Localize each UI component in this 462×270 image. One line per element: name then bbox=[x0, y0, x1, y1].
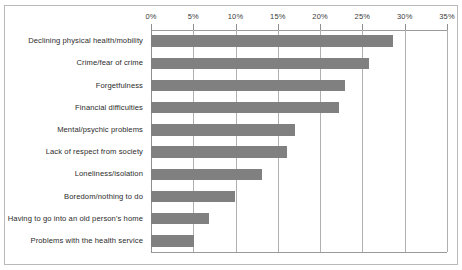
x-tick-label: 20% bbox=[312, 12, 328, 21]
category-label: Mental/psychic problems bbox=[57, 125, 143, 134]
bar bbox=[151, 80, 345, 92]
x-tick-label: 0% bbox=[145, 12, 156, 21]
category-label: Declining physical health/mobility bbox=[28, 36, 143, 45]
category-label: Having to go into an old person's home bbox=[8, 214, 143, 223]
bar bbox=[151, 102, 339, 114]
axis-bottom-rule bbox=[151, 252, 447, 253]
bar bbox=[151, 58, 369, 70]
category-label: Boredom/nothing to do bbox=[64, 192, 143, 201]
bar bbox=[151, 191, 235, 203]
bar bbox=[151, 146, 287, 158]
bar bbox=[151, 235, 194, 247]
bar bbox=[151, 213, 209, 225]
category-axis-labels: Declining physical health/mobilityCrime/… bbox=[0, 30, 147, 252]
x-tick-label: 25% bbox=[355, 12, 371, 21]
bars-layer bbox=[151, 30, 447, 252]
bar bbox=[151, 124, 295, 136]
gridline bbox=[447, 30, 448, 252]
category-label: Loneliness/isolation bbox=[75, 169, 143, 178]
bar bbox=[151, 35, 393, 47]
category-label: Problems with the health service bbox=[30, 236, 143, 245]
x-tick-label: 35% bbox=[439, 12, 455, 21]
bar-chart: 0%5%10%15%20%25%30%35% Declining physica… bbox=[0, 0, 462, 270]
x-tick-label: 5% bbox=[188, 12, 199, 21]
x-tick-label: 10% bbox=[228, 12, 244, 21]
category-label: Lack of respect from society bbox=[46, 147, 143, 156]
category-label: Financial difficulties bbox=[75, 103, 143, 112]
category-label: Forgetfulness bbox=[96, 81, 143, 90]
x-tick-label: 30% bbox=[397, 12, 413, 21]
bar bbox=[151, 169, 262, 181]
x-tick-label: 15% bbox=[270, 12, 286, 21]
category-label: Crime/fear of crime bbox=[77, 58, 143, 67]
